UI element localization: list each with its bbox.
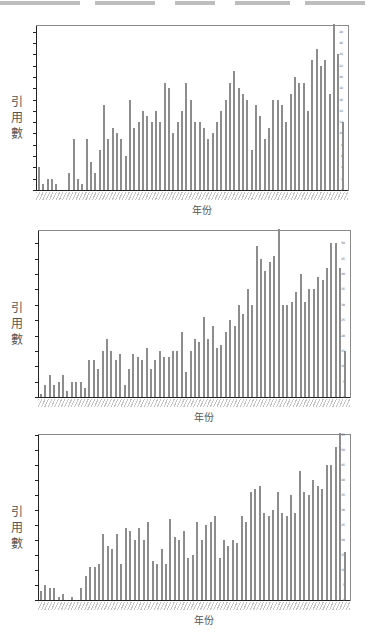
bar [94, 173, 96, 190]
bar [250, 492, 252, 600]
y-tick [33, 179, 36, 180]
bar [225, 332, 227, 397]
y-tick-label: 25 [341, 523, 345, 527]
bar [320, 66, 322, 190]
bar [181, 111, 183, 190]
bar-chart-1: 引用數 0246810121416182022242628 年份 [0, 25, 374, 225]
bar [161, 549, 163, 600]
bar [227, 546, 229, 600]
bar [172, 351, 174, 397]
bar [178, 540, 180, 600]
bar [333, 24, 335, 190]
bar [246, 100, 248, 190]
bar [242, 94, 244, 190]
bar [307, 111, 309, 190]
bar [106, 339, 108, 397]
bar [44, 385, 46, 397]
bar [198, 342, 200, 397]
bar [344, 552, 346, 600]
bar [326, 465, 328, 600]
bar [66, 391, 68, 397]
bar [53, 588, 55, 600]
bar [185, 83, 187, 190]
bar [247, 289, 249, 397]
bar [138, 528, 140, 600]
bar [137, 357, 139, 397]
bar [260, 259, 262, 397]
bar [291, 302, 293, 397]
y-tick-label: 20 [339, 75, 343, 79]
bar [330, 243, 332, 397]
bar [146, 116, 148, 190]
bar [103, 105, 105, 190]
bar [134, 540, 136, 600]
bar [147, 522, 149, 600]
bar [68, 173, 70, 190]
y-tick-label: 35 [341, 493, 345, 497]
y-tick [35, 495, 38, 496]
y-tick [33, 190, 36, 191]
y-tick [33, 77, 36, 78]
bar [55, 184, 57, 190]
bar [125, 528, 127, 600]
bar [216, 348, 218, 397]
bar [335, 243, 337, 397]
bar [277, 100, 279, 190]
bar [321, 489, 323, 600]
bar [44, 585, 46, 600]
bar [282, 305, 284, 397]
bar [199, 122, 201, 190]
y-axis-label-char: 引 [10, 504, 24, 520]
y-tick [35, 480, 38, 481]
y-axis-line [38, 435, 39, 601]
y-tick-label: 26 [339, 41, 343, 45]
bar [49, 588, 51, 600]
bar-chart-3: 引用數 0510152025303540455055 年份 [0, 432, 374, 635]
bar [210, 522, 212, 600]
bar [251, 150, 253, 190]
bar [73, 139, 75, 190]
bar [86, 139, 88, 190]
bar [120, 139, 122, 190]
bar [62, 594, 64, 600]
bar [326, 268, 328, 397]
bar [38, 167, 40, 190]
bar [110, 351, 112, 397]
bar [344, 351, 346, 397]
y-tick [35, 397, 38, 398]
bar [295, 292, 297, 397]
y-axis-label-char: 數 [10, 536, 24, 552]
y-tick [35, 585, 38, 586]
bar [264, 271, 266, 397]
bar [194, 339, 196, 397]
y-tick [35, 366, 38, 367]
bar [203, 317, 205, 397]
bar [177, 122, 179, 190]
y-tick [33, 122, 36, 123]
bar [156, 564, 158, 600]
y-tick-label: 30 [341, 303, 345, 307]
bar [93, 360, 95, 397]
bar [329, 94, 331, 190]
bar [272, 100, 274, 190]
bar [308, 289, 310, 397]
bar [214, 516, 216, 600]
y-tick [35, 450, 38, 451]
bar [58, 382, 60, 397]
bar [264, 139, 266, 190]
bar [263, 513, 265, 600]
bar [205, 525, 207, 600]
y-tick [33, 167, 36, 168]
x-axis-line [36, 190, 348, 191]
bar [124, 385, 126, 397]
y-tick [35, 289, 38, 290]
y-tick-label: 20 [341, 334, 345, 338]
bar [164, 83, 166, 190]
bar [133, 128, 135, 190]
bar [220, 111, 222, 190]
bar [98, 564, 100, 600]
bar [58, 597, 60, 600]
bar [233, 71, 235, 190]
bar [299, 471, 301, 600]
bar [259, 116, 261, 190]
